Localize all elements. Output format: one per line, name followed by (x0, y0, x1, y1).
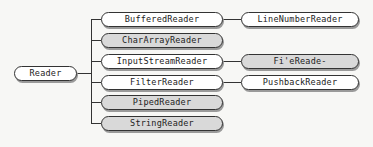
node-chararrayreader: CharArrayReader (101, 33, 223, 48)
node-filereader: Fi'eReade- (241, 54, 359, 69)
connector-branch (91, 19, 101, 20)
connector-grandchild (223, 19, 241, 20)
connector-trunk (91, 19, 92, 123)
connector-root (77, 73, 91, 74)
node-inputstreamreader: InputStreamReader (101, 54, 223, 69)
node-linenumberreader: LineNumberReader (241, 12, 359, 27)
connector-branch (91, 102, 101, 103)
connector-grandchild (223, 82, 241, 83)
node-filterreader: FilterReader (101, 75, 223, 90)
connector-branch (91, 82, 101, 83)
node-pipedreader: PipedReader (101, 95, 223, 110)
node-reader: Reader (14, 66, 77, 81)
connector-branch (91, 123, 101, 124)
connector-branch (91, 40, 101, 41)
connector-branch (91, 61, 101, 62)
connector-grandchild (223, 61, 241, 62)
node-stringreader: StringReader (101, 116, 223, 131)
node-bufferedreader: BufferedReader (101, 12, 223, 27)
node-pushbackreader: PushbackReader (241, 75, 359, 90)
